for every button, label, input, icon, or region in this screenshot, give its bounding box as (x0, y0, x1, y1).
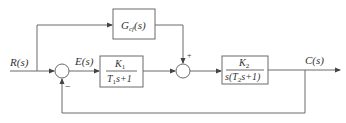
gcf-label: Gcf(s) (121, 19, 146, 33)
error-label: E(s) (74, 55, 94, 68)
output-label: C(s) (305, 54, 324, 67)
block-diagram: R(s) E(s) C(s) Gcf(s) K1 T1s+1 K2 s(T2s+… (0, 0, 346, 123)
input-label: R(s) (9, 56, 29, 69)
summing-junction-1 (55, 64, 69, 78)
feedforward-output-line (155, 25, 183, 63)
feedforward-sign-plus: + (187, 51, 192, 60)
feedback-sign-minus: − (65, 81, 71, 92)
summing-junction-2 (176, 64, 190, 78)
